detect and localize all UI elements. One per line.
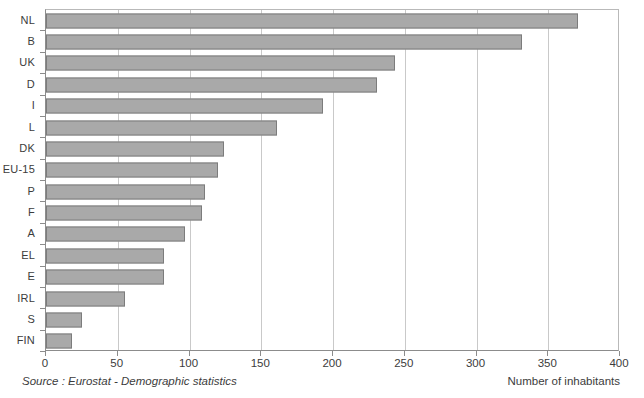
bar-row: [46, 160, 618, 181]
y-axis-label-d: D: [27, 78, 35, 90]
x-axis-label-0: 0: [42, 357, 48, 369]
bar-row: [46, 224, 618, 245]
bar-fin[interactable]: [46, 334, 72, 349]
chart-footer: Source : Eurostat - Demographic statisti…: [0, 375, 644, 395]
bar-rows: [46, 10, 618, 350]
bar-row: [46, 117, 618, 138]
y-axis-label-nl: NL: [21, 14, 35, 26]
y-axis-label-s: S: [27, 313, 35, 325]
bar-row: [46, 309, 618, 330]
plot-wrapper: NLBUKDILDKEU-15PFAELEIRLSFIN 05010015020…: [0, 0, 644, 356]
bar-uk[interactable]: [46, 56, 395, 71]
bar-a[interactable]: [46, 227, 185, 242]
y-axis-label-dk: DK: [19, 142, 35, 154]
y-axis-label-i: I: [32, 99, 35, 111]
x-axis-labels: 050100150200250300350400: [45, 357, 619, 373]
bar-eu-15[interactable]: [46, 163, 218, 178]
x-axis-tick-250: [404, 351, 405, 356]
y-axis-label-a: A: [27, 227, 35, 239]
plot-area: [45, 9, 619, 351]
bar-el[interactable]: [46, 248, 164, 263]
x-axis-tick-100: [189, 351, 190, 356]
bar-row: [46, 74, 618, 95]
x-axis-label-400: 400: [609, 357, 628, 369]
bar-row: [46, 202, 618, 223]
y-axis-label-fin: FIN: [17, 334, 35, 346]
bar-l[interactable]: [46, 120, 277, 135]
bar-row: [46, 245, 618, 266]
bar-i[interactable]: [46, 99, 323, 114]
bar-row: [46, 31, 618, 52]
bar-row: [46, 138, 618, 159]
bar-row: [46, 331, 618, 352]
y-axis-label-e: E: [27, 270, 35, 282]
bar-chart: NLBUKDILDKEU-15PFAELEIRLSFIN 05010015020…: [0, 0, 644, 398]
bar-row: [46, 181, 618, 202]
x-axis-label-300: 300: [466, 357, 485, 369]
y-axis-label-el: EL: [21, 249, 35, 261]
y-axis-label-l: L: [29, 121, 35, 133]
bar-row: [46, 267, 618, 288]
bar-row: [46, 96, 618, 117]
y-axis-label-b: B: [27, 35, 35, 47]
bar-row: [46, 288, 618, 309]
y-axis-labels: NLBUKDILDKEU-15PFAELEIRLSFIN: [0, 9, 42, 351]
x-axis-tick-50: [117, 351, 118, 356]
bar-p[interactable]: [46, 184, 205, 199]
x-axis-tick-350: [547, 351, 548, 356]
y-axis-label-p: P: [27, 185, 35, 197]
y-axis-label-uk: UK: [19, 56, 35, 68]
x-axis-caption: Number of inhabitants: [507, 375, 620, 387]
bar-nl[interactable]: [46, 13, 578, 28]
y-axis-label-eu-15: EU-15: [3, 163, 35, 175]
bar-irl[interactable]: [46, 291, 125, 306]
bar-b[interactable]: [46, 35, 522, 50]
x-axis-label-250: 250: [394, 357, 413, 369]
bar-e[interactable]: [46, 270, 164, 285]
x-axis-tick-0: [45, 351, 46, 356]
x-axis-label-200: 200: [322, 357, 341, 369]
y-axis-label-f: F: [28, 206, 35, 218]
bar-d[interactable]: [46, 77, 377, 92]
bar-row: [46, 53, 618, 74]
bar-dk[interactable]: [46, 141, 224, 156]
x-axis-tick-400: [619, 351, 620, 356]
x-axis-label-50: 50: [110, 357, 123, 369]
x-axis-label-350: 350: [538, 357, 557, 369]
x-axis-tick-150: [260, 351, 261, 356]
x-axis-tick-200: [332, 351, 333, 356]
source-note: Source : Eurostat - Demographic statisti…: [22, 375, 237, 387]
bar-row: [46, 10, 618, 31]
bar-s[interactable]: [46, 312, 82, 327]
y-axis-label-irl: IRL: [17, 292, 35, 304]
x-axis-label-100: 100: [179, 357, 198, 369]
bar-f[interactable]: [46, 206, 202, 221]
x-axis-label-150: 150: [251, 357, 270, 369]
x-axis-tick-300: [476, 351, 477, 356]
